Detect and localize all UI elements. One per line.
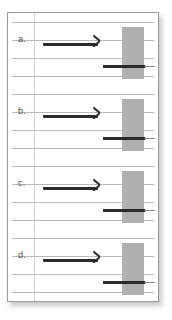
row-label-b: b. (18, 107, 26, 116)
arrow-head (91, 112, 100, 121)
ruled-paper-page: a. b. c. (7, 12, 159, 302)
gray-block-d (122, 243, 144, 295)
row-label-a: a. (18, 35, 26, 44)
right-arrow-c (43, 187, 103, 190)
right-arrow-b (43, 115, 103, 118)
dark-bar-d (103, 281, 145, 284)
arrow-shaft (43, 43, 98, 46)
figure-canvas: a. b. c. (0, 0, 172, 320)
arrow-shaft (43, 115, 98, 118)
arrow-head (91, 256, 100, 265)
gray-block-a (122, 27, 144, 79)
right-arrow-a (43, 43, 103, 46)
right-arrow-d (43, 259, 103, 262)
margin-rule-line (34, 13, 35, 301)
arrow-shaft (43, 187, 98, 190)
row-label-c: c. (18, 179, 25, 188)
arrow-head (91, 184, 100, 193)
dark-bar-c (103, 209, 145, 212)
dark-bar-a (103, 65, 145, 68)
arrow-shaft (43, 259, 98, 262)
gray-block-c (122, 171, 144, 223)
row-label-d: d. (18, 251, 26, 260)
arrow-head (91, 40, 100, 49)
gray-block-b (122, 99, 144, 151)
dark-bar-b (103, 137, 145, 140)
